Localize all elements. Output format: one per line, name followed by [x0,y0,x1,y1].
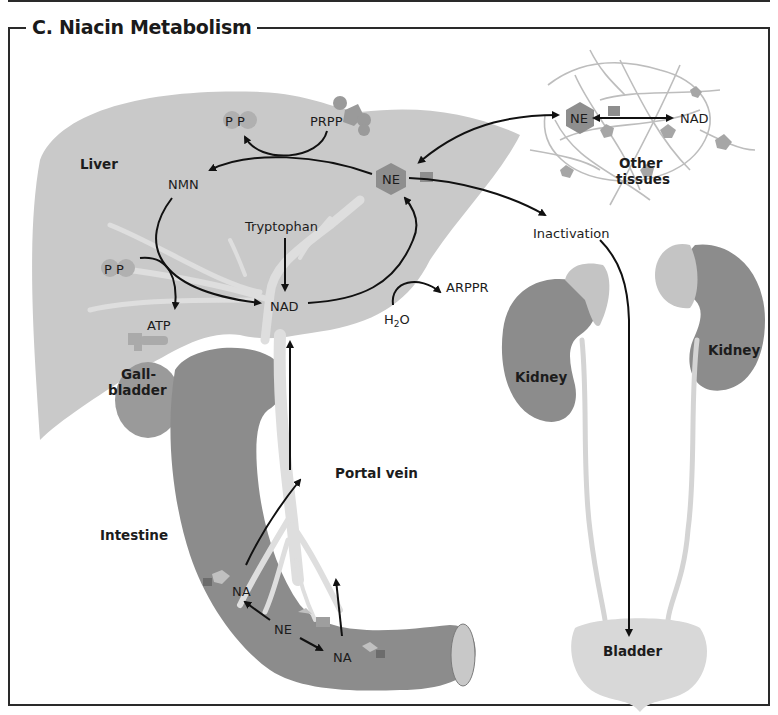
label-ne-tissue: NE [570,111,588,126]
label-prpp: PRPP [310,114,343,129]
label-liver: Liver [80,157,118,172]
label-na-left: NA [232,584,251,599]
label-bladder: Bladder [603,644,662,659]
label-na-right: NA [333,650,352,665]
label-intestine: Intestine [100,528,168,543]
label-gallbladder-line1: Gall- [121,367,156,382]
label-nad-liver: NAD [270,299,299,314]
bladder-shape [571,618,707,712]
label-ne-intestine: NE [274,622,292,637]
label-other-tissues-line1: Other [619,156,662,171]
label-pp-top: P P [225,114,245,129]
intestine-lumen-end [451,624,475,686]
label-kidney-left: Kidney [515,370,567,385]
label-gallbladder-line2: bladder [108,383,167,398]
label-ne-liver: NE [382,172,400,187]
h2o-h: H [384,312,394,327]
label-nad-tissue: NAD [680,111,709,126]
label-nmn: NMN [168,177,199,192]
label-arppr: ARPPR [446,280,489,295]
label-portal-vein: Portal vein [335,466,418,481]
amide-group-tissue [608,106,620,116]
niacin-diagram [0,0,778,715]
label-kidney-right: Kidney [708,343,760,358]
adrenal-right [655,244,698,308]
intestine-shape [170,348,475,691]
label-inactivation: Inactivation [533,226,609,241]
label-tryptophan: Tryptophan [245,219,318,234]
label-pp-left: P P [104,262,124,277]
label-other-tissues-line2: tissues [616,172,670,187]
h2o-o: O [400,312,410,327]
label-h2o: H2O [384,312,410,332]
label-atp: ATP [147,318,171,333]
ureters [582,340,697,620]
